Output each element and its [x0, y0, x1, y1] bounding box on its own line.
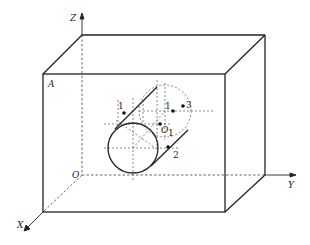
y-axis	[265, 173, 296, 177]
x-axis	[24, 212, 43, 231]
point-1-front-label: 1	[118, 101, 124, 111]
point-2-label: 2	[173, 150, 179, 160]
x-axis-label: X	[16, 220, 24, 230]
point-3	[181, 104, 185, 108]
hole-back-circle	[139, 83, 215, 140]
y-axis-label: Y	[288, 180, 295, 190]
center-o1-subscript: 1	[168, 128, 174, 138]
z-axis-label: Z	[69, 13, 77, 23]
point-1-back	[171, 109, 175, 113]
corner-a-label: A	[47, 79, 55, 89]
point-3-label: 3	[186, 100, 192, 110]
point-1-front	[122, 111, 126, 115]
point-2	[166, 145, 170, 149]
origin-label: O	[72, 170, 80, 180]
diagram-canvas: Z Y X O A	[0, 0, 310, 245]
z-axis	[80, 13, 84, 35]
point-1-back-label: 1	[165, 101, 171, 111]
